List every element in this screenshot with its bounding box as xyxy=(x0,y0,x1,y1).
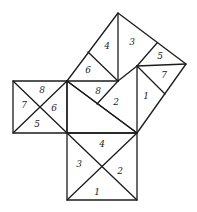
piece-label: 2 xyxy=(116,166,123,176)
piece-label: 2 xyxy=(112,97,119,107)
piece-label: 1 xyxy=(94,187,100,197)
piece-label: 3 xyxy=(76,159,82,169)
piece-label: 6 xyxy=(51,103,57,113)
piece-label: 1 xyxy=(143,91,149,101)
piece-label: 3 xyxy=(129,37,135,47)
piece-label: 7 xyxy=(161,70,167,80)
piece-label: 8 xyxy=(95,86,101,96)
piece-label: 4 xyxy=(103,41,110,51)
piece-label: 8 xyxy=(39,85,45,95)
hypotenuse-labels: 1 2 3 4 5 6 7 8 xyxy=(85,37,167,107)
piece-label: 5 xyxy=(34,119,40,129)
piece-label: 7 xyxy=(21,100,27,110)
pythagorean-dissection-diagram: 1 2 3 4 5 6 7 8 5 6 7 8 1 2 3 4 xyxy=(0,0,197,212)
piece-label: 5 xyxy=(157,51,163,61)
piece-label: 4 xyxy=(98,139,105,149)
piece-label: 6 xyxy=(85,65,91,75)
